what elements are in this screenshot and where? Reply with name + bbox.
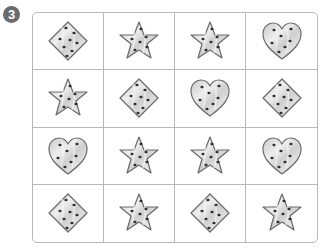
diamond-cookie-icon	[46, 191, 90, 235]
heart-cookie-icon	[260, 134, 304, 178]
grid-cell[interactable]	[33, 128, 104, 185]
diamond-cookie-icon	[46, 19, 90, 63]
grid-cell[interactable]	[33, 185, 104, 242]
grid-cell[interactable]	[104, 13, 175, 70]
star-cookie-icon	[260, 191, 304, 235]
grid-cell[interactable]	[104, 185, 175, 242]
diamond-cookie-icon	[260, 76, 304, 120]
problem-number-badge: 3	[3, 6, 20, 23]
grid-cell[interactable]	[33, 70, 104, 127]
heart-cookie-icon	[260, 19, 304, 63]
heart-cookie-icon	[46, 134, 90, 178]
diamond-cookie-icon	[188, 191, 232, 235]
star-cookie-icon	[188, 134, 232, 178]
grid-cell[interactable]	[175, 70, 246, 127]
shape-grid	[32, 12, 318, 243]
grid-cell[interactable]	[246, 185, 317, 242]
star-cookie-icon	[46, 76, 90, 120]
grid-cell[interactable]	[175, 185, 246, 242]
heart-cookie-icon	[188, 76, 232, 120]
grid-cell[interactable]	[246, 13, 317, 70]
grid-cell[interactable]	[246, 70, 317, 127]
grid-cell[interactable]	[175, 128, 246, 185]
star-cookie-icon	[117, 134, 161, 178]
star-cookie-icon	[117, 191, 161, 235]
grid-cell[interactable]	[104, 70, 175, 127]
grid-cell[interactable]	[33, 13, 104, 70]
star-cookie-icon	[188, 19, 232, 63]
grid-cell[interactable]	[175, 13, 246, 70]
grid-cell[interactable]	[104, 128, 175, 185]
grid-cell[interactable]	[246, 128, 317, 185]
diamond-cookie-icon	[117, 76, 161, 120]
star-cookie-icon	[117, 19, 161, 63]
